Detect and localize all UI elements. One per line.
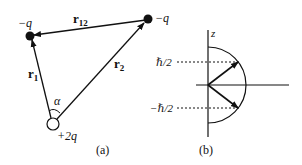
label-r12: r12 — [73, 11, 88, 28]
label-r1: r1 — [28, 66, 39, 83]
label-r2-sub: 2 — [120, 63, 125, 73]
charge-right — [144, 15, 153, 24]
figure-a: −q −q +2q r12 r1 r2 α (a) — [18, 11, 169, 157]
vector-r12 — [34, 20, 146, 35]
label-level-up: ℏ/2 — [156, 56, 172, 68]
spin-down-vector — [208, 85, 238, 108]
label-angle-alpha: α — [54, 94, 61, 108]
figure-b: z ℏ/2 −ℏ/2 (b) — [150, 27, 289, 157]
vector-r2 — [57, 23, 144, 119]
charge-left — [26, 32, 35, 41]
caption-b: (b) — [199, 143, 213, 157]
label-r2: r2 — [114, 56, 125, 73]
angle-arc — [49, 109, 60, 113]
label-charge-left: −q — [18, 16, 32, 30]
label-charge-right: −q — [155, 11, 169, 25]
diagram-canvas: −q −q +2q r12 r1 r2 α (a) z ℏ/2 −ℏ/2 (b) — [0, 0, 302, 165]
label-level-down: −ℏ/2 — [150, 102, 174, 114]
label-r12-sub: 12 — [79, 18, 89, 28]
label-z-axis: z — [210, 27, 216, 39]
label-charge-origin: +2q — [57, 129, 77, 143]
label-r1-sub: 1 — [34, 73, 39, 83]
spin-up-vector — [208, 62, 238, 85]
caption-a: (a) — [96, 143, 109, 157]
